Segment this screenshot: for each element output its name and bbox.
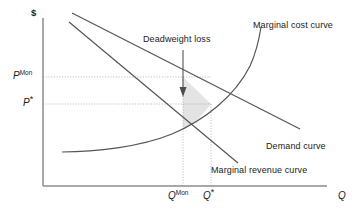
marginal-revenue-curve-label: Marginal revenue curve <box>211 166 307 175</box>
marginal-cost-curve-label: Marginal cost curve <box>253 21 333 30</box>
quantity-tick-q-mon-superscript: Mon <box>176 189 189 196</box>
price-tick-p-mon: PMon <box>13 71 32 81</box>
quantity-tick-q-mon: QMon <box>168 191 188 201</box>
quantity-tick-q-star: Q* <box>203 191 214 201</box>
demand-curve-label: Demand curve <box>266 142 326 151</box>
y-axis-label: $ <box>31 8 36 18</box>
deadweight-loss-label: Deadweight loss <box>143 35 211 44</box>
price-tick-p-star-superscript: * <box>30 94 34 104</box>
quantity-tick-q-mon-symbol: Q <box>168 190 176 201</box>
price-tick-p-mon-symbol: P <box>13 70 20 81</box>
x-axis-label: Q <box>338 191 346 201</box>
price-tick-p-star: P* <box>23 98 33 108</box>
deadweight-loss-figure: $ Q PMon P* QMon Q* Marginal cost curve … <box>0 0 359 211</box>
figure-canvas <box>0 0 359 211</box>
quantity-tick-q-star-symbol: Q <box>203 190 211 201</box>
quantity-tick-q-star-superscript: * <box>211 187 215 197</box>
price-tick-p-mon-superscript: Mon <box>20 69 33 76</box>
marginal-cost-curve-line <box>62 27 261 152</box>
price-tick-p-star-symbol: P <box>23 97 30 108</box>
